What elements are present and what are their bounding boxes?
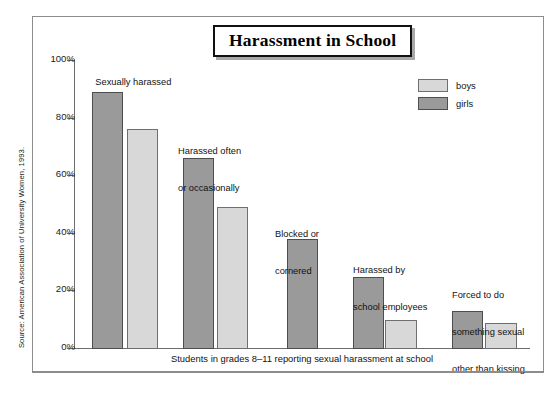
chart-legend: boys girls [418, 79, 476, 115]
x-axis-caption: Students in grades 8–11 reporting sexual… [74, 353, 530, 364]
annotation-line: other than kissing [452, 363, 525, 375]
chart-figure: Source: American Association of Universi… [0, 0, 558, 406]
y-tick-label-100: 100% [35, 53, 75, 64]
annotation-line: Forced to do [452, 289, 525, 301]
annotation-line: school employees [353, 301, 427, 313]
y-tick-label-80: 80% [35, 111, 75, 122]
annotation-forced-sexual: Forced to do something sexual other than… [452, 265, 525, 399]
y-tick-label-0: 0% [35, 341, 75, 352]
bar-boys-harassed-often [217, 207, 248, 349]
source-note: Source: American Association of Universi… [17, 133, 26, 363]
legend-label-girls: girls [456, 98, 473, 109]
legend-swatch-boys [418, 79, 448, 92]
annotation-line: Sexually harassed [95, 77, 171, 87]
annotation-blocked-cornered: Blocked or cornered [275, 204, 319, 302]
chart-title-plaque: Harassment in School [213, 25, 412, 57]
annotation-line: Harassed by [353, 264, 427, 276]
y-tick-label-20: 20% [35, 283, 75, 294]
bar-girls-sexually-harassed [92, 92, 123, 349]
annotation-line: Harassed often [178, 145, 241, 157]
annotation-harassed-often: Harassed often or occasionally [178, 121, 241, 219]
y-tick-label-60: 60% [35, 168, 75, 179]
legend-label-boys: boys [456, 80, 476, 91]
annotation-line: something sexual [452, 326, 525, 338]
page-title: Harassment in School [229, 31, 396, 50]
figure-bottom-rule [33, 371, 543, 372]
legend-item-girls: girls [418, 97, 476, 110]
bar-boys-sexually-harassed [127, 129, 158, 349]
legend-item-boys: boys [418, 79, 476, 92]
annotation-sexually-harassed: Sexually harassed [85, 64, 171, 101]
annotation-line: or occasionally [178, 182, 241, 194]
annotation-line: cornered [275, 265, 319, 277]
legend-swatch-girls [418, 97, 448, 110]
annotation-line: Blocked or [275, 228, 319, 240]
annotation-school-employees: Harassed by school employees [353, 240, 427, 338]
y-tick-label-40: 40% [35, 226, 75, 237]
